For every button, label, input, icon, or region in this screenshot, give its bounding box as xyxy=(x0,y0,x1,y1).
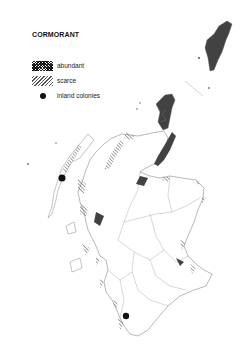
inland-colony-marker xyxy=(59,175,66,182)
shetland-islands xyxy=(198,21,232,71)
scotland-map xyxy=(0,0,246,356)
mainland-outline xyxy=(78,131,212,336)
orkney-islands xyxy=(136,94,175,130)
inland-colony-marker xyxy=(123,313,129,319)
